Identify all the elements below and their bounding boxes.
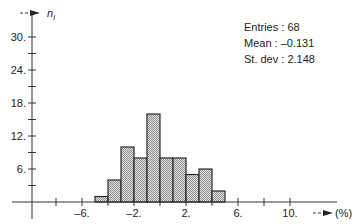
y-tick-label: 24. [11,64,26,76]
y-tick-label: 12. [11,130,26,142]
x-tick-label: 6. [233,207,242,219]
x-tick-label: –6. [74,207,89,219]
y-axis-arrow-icon [30,10,40,16]
histogram-bar [147,114,160,202]
x-tick-label: 2. [181,207,190,219]
histogram-bar [186,175,199,203]
histogram-bar [173,158,186,202]
x-tick-label: 10. [282,207,297,219]
y-tick-label: 6. [17,163,26,175]
x-axis-label: (%) [335,207,352,219]
histogram-bar [121,147,134,202]
x-tick-label: –2. [126,207,141,219]
histogram-chart: 6.12.18.24.30. –6.–2.2.6.10. ni (%) Entr… [0,0,357,224]
y-tick-label: 30. [11,31,26,43]
histogram-bar [160,158,173,202]
y-tick-labels: 6.12.18.24.30. [11,31,26,175]
stat-stdev: St. dev : 2.148 [244,53,315,65]
histogram-bar [95,197,108,203]
y-axis-label: ni [47,7,55,22]
stat-entries: Entries : 68 [244,21,300,33]
x-axis-arrow-icon [323,210,333,216]
histogram-bar [199,169,212,202]
histogram-bar [108,180,121,202]
x-tick-labels: –6.–2.2.6.10. [74,207,297,219]
y-axis-label-sub: i [53,13,55,22]
histogram-bar [134,158,147,202]
histogram-bars [95,114,225,202]
stat-mean: Mean : –0.131 [244,37,314,49]
y-tick-label: 18. [11,97,26,109]
histogram-bar [212,191,225,202]
